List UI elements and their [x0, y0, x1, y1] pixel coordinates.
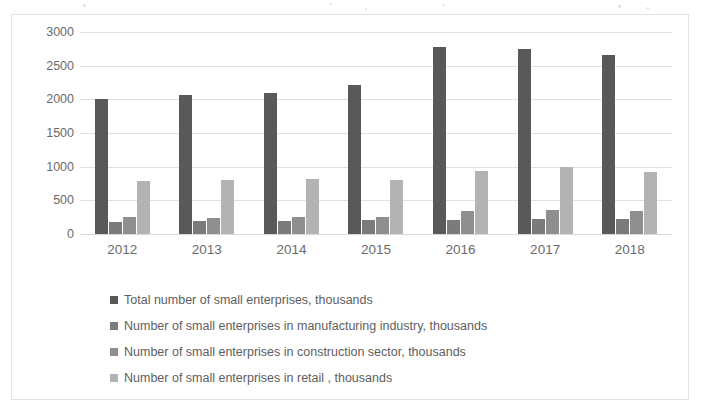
bar [560, 167, 573, 234]
plot-area [80, 32, 672, 234]
x-tick-label: 2017 [530, 243, 560, 257]
bars-layer [80, 32, 672, 234]
bar [475, 171, 488, 234]
bar-group [249, 32, 334, 234]
scan-artifact-top [0, 0, 704, 14]
legend-item[interactable]: Number of small enterprises in retail , … [110, 365, 670, 391]
legend-item-label: Number of small enterprises in construct… [124, 346, 466, 359]
bar-group [418, 32, 503, 234]
bar [433, 47, 446, 234]
bar [221, 180, 234, 234]
x-axis: 2012201320142015201620172018 [80, 243, 672, 263]
bar [518, 49, 531, 235]
y-tick-label: 1000 [46, 160, 74, 173]
bar-group [80, 32, 165, 234]
bar [179, 95, 192, 234]
bar [461, 211, 474, 234]
legend-item[interactable]: Number of small enterprises in construct… [110, 339, 670, 365]
y-tick-label: 1500 [46, 127, 74, 140]
gridline [80, 234, 672, 235]
bar [193, 221, 206, 234]
x-tick-label: 2012 [107, 243, 137, 257]
legend-item[interactable]: Total number of small enterprises, thous… [110, 287, 670, 313]
bar [306, 179, 319, 234]
y-axis: 300025002000150010005000 [26, 32, 74, 234]
legend-swatch-icon [110, 296, 118, 304]
x-tick-label: 2016 [446, 243, 476, 257]
bar-group [503, 32, 588, 234]
y-tick-label: 0 [67, 228, 74, 241]
x-tick-label: 2018 [615, 243, 645, 257]
bar [546, 210, 559, 234]
bar [207, 218, 220, 234]
bar [362, 220, 375, 234]
bar-group [587, 32, 672, 234]
bar [376, 217, 389, 234]
legend-item-label: Total number of small enterprises, thous… [124, 294, 373, 307]
bar [447, 220, 460, 234]
bar [602, 55, 615, 234]
y-tick-label: 2000 [46, 93, 74, 106]
bar-group [334, 32, 419, 234]
bar [292, 217, 305, 234]
bar [630, 211, 643, 234]
bar [616, 219, 629, 234]
legend-item[interactable]: Number of small enterprises in manufactu… [110, 313, 670, 339]
x-tick-label: 2015 [361, 243, 391, 257]
legend-item-label: Number of small enterprises in manufactu… [124, 320, 487, 333]
bar [137, 181, 150, 234]
x-tick-label: 2014 [276, 243, 306, 257]
legend-swatch-icon [110, 322, 118, 330]
y-tick-label: 3000 [46, 26, 74, 39]
bar [644, 172, 657, 234]
bar [109, 222, 122, 234]
y-tick-label: 500 [53, 194, 74, 207]
chart-legend: Total number of small enterprises, thous… [110, 287, 670, 391]
legend-swatch-icon [110, 348, 118, 356]
bar [278, 221, 291, 234]
chart-frame: 300025002000150010005000 201220132014201… [11, 14, 689, 400]
bar [532, 219, 545, 234]
bar [348, 85, 361, 234]
legend-swatch-icon [110, 374, 118, 382]
legend-item-label: Number of small enterprises in retail , … [124, 372, 392, 385]
y-tick-label: 2500 [46, 59, 74, 72]
bar-group [165, 32, 250, 234]
bar [123, 217, 136, 234]
bar [264, 93, 277, 234]
bar [390, 180, 403, 234]
x-tick-label: 2013 [192, 243, 222, 257]
bar [95, 99, 108, 234]
